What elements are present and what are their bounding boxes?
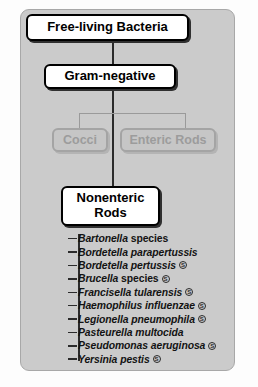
node-nonenteric-label-line1: Nonenteric: [77, 191, 145, 206]
circled-s-badge-icon: S: [185, 288, 193, 296]
species-list-item: Haemophilus influenzaeS: [78, 299, 233, 312]
species-list-item: Bordetella parapertussisS: [78, 245, 233, 258]
species-epithet: aeruginosa: [151, 340, 205, 351]
species-tick-mark: [68, 278, 77, 280]
species-tick-mark: [68, 238, 77, 240]
species-epithet: species: [131, 233, 168, 244]
species-list-item: Pseudomonas aeruginosaS: [78, 339, 233, 352]
species-list-item: Yersinia pestisS: [78, 353, 233, 366]
flowchart-figure: Free-living Bacteria Gram-negative Cocci…: [0, 0, 258, 387]
species-epithet: parapertussis: [131, 247, 198, 258]
species-epithet: species: [121, 273, 158, 284]
species-epithet: pneumophila: [131, 314, 195, 325]
species-tick-mark: [68, 292, 77, 294]
species-genus: Bartonella: [78, 233, 128, 244]
species-tick-mark: [68, 318, 77, 320]
node-cocci[interactable]: Cocci: [52, 128, 108, 152]
species-list-item: Brucella speciesS: [78, 272, 233, 285]
circled-s-badge-icon: S: [179, 261, 187, 269]
circled-s-badge-icon: S: [198, 315, 206, 323]
node-gram-negative[interactable]: Gram-negative: [44, 64, 176, 89]
species-list-item: Francisella tularensisS: [78, 286, 233, 299]
species-genus: Francisella: [78, 287, 131, 298]
species-genus: Brucella: [78, 273, 118, 284]
connector-root-to-gram: [112, 43, 114, 64]
species-tick-mark: [68, 345, 77, 347]
species-list: Bartonella speciesSBordetella parapertus…: [78, 232, 233, 366]
circled-s-badge-icon: S: [162, 275, 170, 283]
species-tick-mark: [68, 265, 77, 267]
species-genus: Pasteurella: [78, 327, 132, 338]
node-nonenteric-rods[interactable]: Nonenteric Rods: [61, 186, 160, 226]
species-genus: Bordetella: [78, 247, 128, 258]
node-nonenteric-label-line2: Rods: [94, 206, 127, 221]
species-tick-mark: [68, 358, 77, 360]
species-epithet: tularensis: [134, 287, 182, 298]
circled-s-badge-icon: S: [198, 302, 206, 310]
species-genus: Pseudomonas: [78, 340, 148, 351]
species-epithet: multocida: [135, 327, 183, 338]
species-genus: Haemophilus: [78, 300, 142, 311]
species-epithet: influenzae: [145, 300, 195, 311]
connector-gram-to-nonenteric: [112, 89, 114, 186]
node-free-living-bacteria[interactable]: Free-living Bacteria: [26, 14, 189, 41]
circled-s-badge-icon: S: [208, 342, 216, 350]
node-cocci-label: Cocci: [63, 133, 97, 147]
species-epithet: pestis: [120, 354, 149, 365]
species-genus: Bordetella: [78, 260, 128, 271]
species-list-item: Bartonella speciesS: [78, 232, 233, 245]
node-enteric-label: Enteric Rods: [129, 133, 206, 147]
species-tick-mark: [68, 251, 77, 253]
node-enteric-rods[interactable]: Enteric Rods: [120, 128, 216, 152]
node-gram-label: Gram-negative: [64, 69, 155, 84]
species-tick-mark: [68, 332, 77, 334]
species-list-item: Bordetella pertussisS: [78, 259, 233, 272]
species-tick-mark: [68, 305, 77, 307]
species-list-item: Pasteurella multocidaS: [78, 326, 233, 339]
species-genus: Legionella: [78, 314, 128, 325]
connector-branch-bar-dimmed: [79, 113, 186, 129]
species-genus: Yersinia: [78, 354, 117, 365]
species-list-item: Legionella pneumophilaS: [78, 312, 233, 325]
circled-s-badge-icon: S: [153, 355, 161, 363]
node-root-label: Free-living Bacteria: [47, 20, 168, 35]
species-epithet: pertussis: [131, 260, 176, 271]
